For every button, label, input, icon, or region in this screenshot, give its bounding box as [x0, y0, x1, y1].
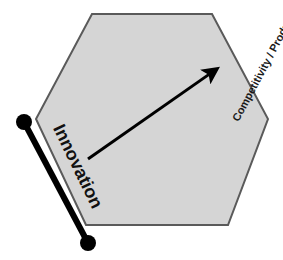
innovation-axis-start-dot: [16, 114, 32, 130]
diagram-svg: Innovation Competitivity / Productivity: [0, 0, 283, 260]
diagram-canvas: Innovation Competitivity / Productivity: [0, 0, 283, 260]
innovation-axis-end-dot: [80, 235, 96, 251]
